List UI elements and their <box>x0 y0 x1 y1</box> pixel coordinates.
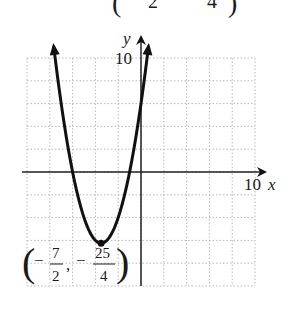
curve-arrowheads <box>50 43 153 56</box>
vertex-den-2: 4 <box>100 268 108 284</box>
vertex-comma: , <box>66 255 70 274</box>
x-axis-label: x <box>267 175 276 194</box>
arrowhead-icon <box>142 43 152 56</box>
y-axis-label: y <box>121 29 131 48</box>
vertex-den-1: 2 <box>52 268 60 284</box>
left-denominator: 2 <box>148 0 158 12</box>
parabola-graph: ( 2 4 ) 10 x y 10 ( − 7 2 , − 25 4 ) <box>0 0 301 311</box>
vertex-minus-2: − <box>76 251 86 270</box>
vertex-label: ( − 7 2 , − 25 4 ) <box>22 240 129 285</box>
close-paren: ) <box>228 0 237 18</box>
right-denominator: 4 <box>207 0 217 12</box>
vertex-num-2: 25 <box>95 245 110 261</box>
arrowhead-icon <box>50 43 60 56</box>
x-tick-label: 10 <box>244 175 261 194</box>
y-tick-label: 10 <box>115 49 132 68</box>
open-paren: ( <box>112 0 121 18</box>
top-fraction-fragment: ( 2 4 ) <box>112 0 237 18</box>
vertex-minus-1: − <box>34 251 44 270</box>
vertex-num-1: 7 <box>52 245 60 261</box>
parabola-curve <box>54 47 149 243</box>
vertex-close-paren: ) <box>116 240 129 285</box>
